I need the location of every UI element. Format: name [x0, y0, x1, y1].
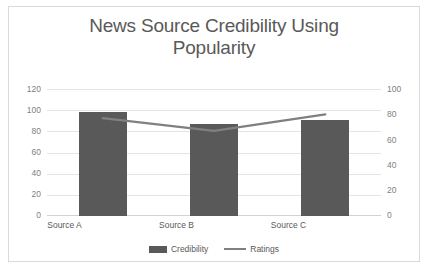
- x-axis-label-source-b: Source B: [135, 220, 218, 230]
- y-axis-right-tick-80: 80: [387, 110, 417, 118]
- ratings-line-series: [47, 89, 381, 216]
- y-axis-left-tick-80: 80: [11, 127, 41, 135]
- y-axis-left-tick-0: 0: [11, 211, 41, 219]
- x-axis-label-source-c: Source C: [247, 220, 330, 230]
- legend-bar-swatch-icon: [149, 246, 167, 253]
- y-axis-right-tick-100: 100: [387, 85, 417, 93]
- y-axis-left-tick-60: 60: [11, 148, 41, 156]
- chart-title-line-1: News Source Credibility Using: [9, 15, 419, 37]
- chart-title-line-2: Popularity: [9, 37, 419, 59]
- y-axis-left-tick-40: 40: [11, 169, 41, 177]
- chart-title: News Source Credibility Using Popularity: [9, 15, 419, 59]
- y-axis-left-tick-20: 20: [11, 190, 41, 198]
- y-axis-right-tick-40: 40: [387, 161, 417, 169]
- chart-legend: Credibility Ratings: [9, 244, 419, 254]
- legend-label-ratings: Ratings: [250, 244, 279, 254]
- y-axis-right-tick-60: 60: [387, 136, 417, 144]
- y-axis-left-tick-120: 120: [11, 85, 41, 93]
- legend-line-swatch-icon: [224, 248, 246, 250]
- legend-item-ratings[interactable]: Ratings: [224, 244, 279, 254]
- y-axis-right-tick-20: 20: [387, 186, 417, 194]
- y-axis-right-tick-0: 0: [387, 211, 417, 219]
- legend-label-credibility: Credibility: [171, 244, 208, 254]
- plot-area: [47, 89, 381, 216]
- y-axis-left-tick-100: 100: [11, 106, 41, 114]
- legend-item-credibility[interactable]: Credibility: [149, 244, 208, 254]
- chart-frame: News Source Credibility Using Popularity…: [8, 6, 420, 262]
- x-axis-label-source-a: Source A: [23, 220, 106, 230]
